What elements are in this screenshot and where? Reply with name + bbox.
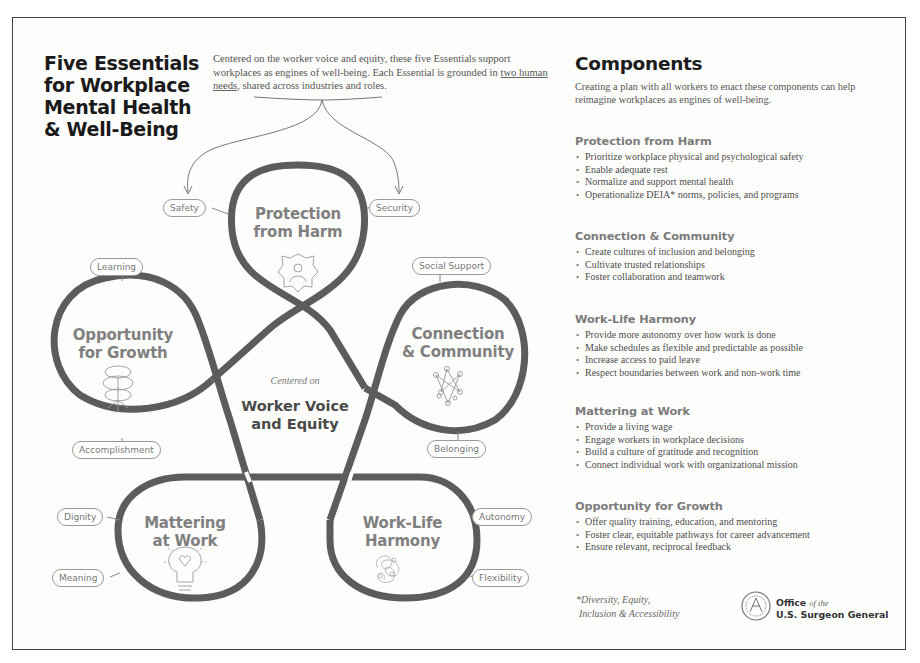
section-list: Provide a living wage Engage workers in … (575, 421, 885, 471)
surgeon-general-seal-icon (742, 592, 770, 620)
label-line: Work-Life (345, 514, 460, 532)
need-pill-flexibility: Flexibility (472, 569, 529, 587)
section-connection: Connection & Community Create cultures o… (575, 230, 885, 284)
section-heading: Protection from Harm (575, 135, 885, 148)
list-item: Enable adequate rest (575, 164, 885, 177)
list-item: Prioritize workplace physical and psycho… (575, 151, 885, 164)
list-item: Operationalize DEIA* norms, policies, an… (575, 189, 885, 202)
section-mattering: Mattering at Work Provide a living wage … (575, 405, 885, 471)
center-caption: Centered on (230, 375, 360, 386)
deia-footnote: *Diversity, Equity, Inclusion & Accessib… (576, 593, 679, 620)
need-pill-meaning: Meaning (52, 569, 104, 587)
center-title: Worker Voice and Equity (215, 397, 375, 433)
org-name: U.S. Surgeon General (776, 609, 889, 621)
list-item: Create cultures of inclusion and belongi… (575, 246, 885, 259)
center-title-line: Worker Voice (215, 397, 375, 415)
network-icon (434, 367, 463, 406)
components-title: Components (575, 53, 702, 74)
label-line: Opportunity (58, 326, 188, 344)
list-item: Engage workers in workplace decisions (575, 434, 885, 447)
need-pill-dignity: Dignity (57, 508, 103, 526)
org-of-the: of the (809, 598, 828, 608)
label-line: Connection (388, 325, 528, 343)
section-heading: Opportunity for Growth (575, 500, 885, 513)
organization-logo-text: Office of the U.S. Surgeon General (776, 597, 889, 621)
footnote-line: *Diversity, Equity, (576, 593, 679, 607)
list-item: Connect individual work with organizatio… (575, 459, 885, 472)
section-heading: Mattering at Work (575, 405, 885, 418)
need-pill-learning: Learning (90, 258, 143, 276)
need-pill-accomplishment: Accomplishment (72, 441, 161, 459)
label-line: from Harm (230, 223, 366, 241)
section-list: Offer quality training, education, and m… (575, 516, 885, 554)
need-pill-safety: Safety (163, 199, 206, 217)
section-worklife: Work-Life Harmony Provide more autonomy … (575, 313, 885, 379)
need-pill-security: Security (369, 199, 420, 217)
list-item: Provide more autonomy over how work is d… (575, 329, 885, 342)
section-list: Provide more autonomy over how work is d… (575, 329, 885, 379)
essential-connection-label: Connection & Community (388, 325, 528, 361)
list-item: Provide a living wage (575, 421, 885, 434)
bracket-arrows (184, 97, 403, 194)
org-office: Office (776, 597, 806, 608)
label-line: Mattering (130, 514, 240, 532)
list-item: Normalize and support mental health (575, 176, 885, 189)
list-item: Increase access to paid leave (575, 354, 885, 367)
label-line: & Community (388, 343, 528, 361)
list-item: Foster clear, equitable pathways for car… (575, 529, 885, 542)
list-item: Cultivate trusted relationships (575, 259, 885, 272)
section-list: Prioritize workplace physical and psycho… (575, 151, 885, 201)
need-pill-autonomy: Autonomy (472, 508, 532, 526)
list-item: Offer quality training, education, and m… (575, 516, 885, 529)
section-protection: Protection from Harm Prioritize workplac… (575, 135, 885, 201)
essential-mattering-label: Mattering at Work (130, 514, 240, 550)
list-item: Build a culture of gratitude and recogni… (575, 446, 885, 459)
section-heading: Work-Life Harmony (575, 313, 885, 326)
footnote-line: Inclusion & Accessibility (576, 607, 679, 621)
components-intro: Creating a plan with all workers to enac… (575, 80, 880, 106)
section-heading: Connection & Community (575, 230, 885, 243)
list-item: Ensure relevant, reciprocal feedback (575, 541, 885, 554)
label-line: Protection (230, 205, 366, 223)
essential-protection-label: Protection from Harm (230, 205, 366, 241)
need-pill-belonging: Belonging (427, 440, 486, 458)
essential-worklife-label: Work-Life Harmony (345, 514, 460, 550)
label-line: for Growth (58, 344, 188, 362)
section-list: Create cultures of inclusion and belongi… (575, 246, 885, 284)
list-item: Foster collaboration and teamwork (575, 271, 885, 284)
list-item: Make schedules as flexible and predictab… (575, 342, 885, 355)
label-line: at Work (130, 532, 240, 550)
section-growth: Opportunity for Growth Offer quality tra… (575, 500, 885, 554)
list-item: Respect boundaries between work and non-… (575, 367, 885, 380)
label-line: Harmony (345, 532, 460, 550)
essential-growth-label: Opportunity for Growth (58, 326, 188, 362)
need-pill-social-support: Social Support (412, 257, 491, 275)
shield-person-icon (278, 254, 318, 292)
tangle-icon (376, 556, 398, 583)
center-title-line: and Equity (215, 415, 375, 433)
